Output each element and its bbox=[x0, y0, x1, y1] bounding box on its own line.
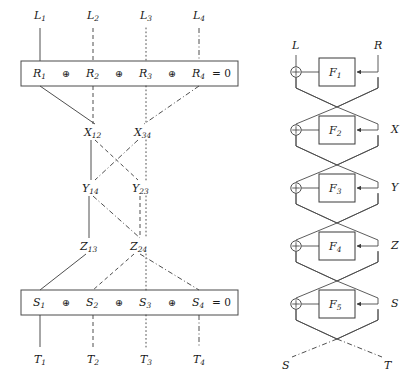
xor-op-bottom-3: ⊕ bbox=[168, 297, 176, 308]
term-s3: S3 bbox=[139, 296, 152, 310]
label-round-4-right: Z bbox=[390, 239, 399, 252]
label-l4: L4 bbox=[192, 9, 205, 23]
top-equation-box bbox=[21, 61, 238, 86]
label-x12: X12 bbox=[83, 126, 102, 140]
edge-r4-to-x34 bbox=[144, 86, 199, 124]
term-s2: S2 bbox=[86, 296, 99, 310]
final-out-right bbox=[337, 339, 382, 357]
label-z13: Z13 bbox=[79, 240, 97, 254]
label-z24: Z24 bbox=[129, 240, 147, 254]
feistel-round-5: F5 S bbox=[291, 290, 399, 318]
term-r2: R2 bbox=[85, 67, 99, 81]
edge-y14-to-z24 bbox=[93, 196, 140, 238]
label-feistel-t-bottom: T bbox=[384, 359, 393, 372]
xor-op-top-1: ⊕ bbox=[62, 68, 70, 79]
term-r1: R1 bbox=[32, 67, 46, 81]
edge-r1-to-x12 bbox=[40, 86, 95, 124]
term-r4: R4 bbox=[191, 67, 205, 81]
label-l1: L1 bbox=[33, 9, 46, 23]
label-y23: Y23 bbox=[132, 182, 149, 196]
term-s1: S1 bbox=[33, 296, 45, 310]
top-equation-result: = 0 bbox=[212, 67, 231, 79]
label-round-3-right: Y bbox=[391, 181, 400, 194]
label-l2: L2 bbox=[86, 9, 99, 23]
label-t2: T2 bbox=[87, 353, 99, 367]
label-y14: Y14 bbox=[82, 182, 99, 196]
edge-z13-to-s1 bbox=[40, 254, 86, 290]
label-t1: T1 bbox=[34, 353, 46, 367]
label-feistel-l-top: L bbox=[291, 39, 299, 52]
edge-x12-to-y23 bbox=[95, 140, 138, 180]
label-round-2-right: X bbox=[390, 123, 400, 136]
feistel-round-2: F2 X bbox=[291, 116, 400, 144]
label-t4: T4 bbox=[193, 353, 205, 367]
feistel-round-4: F4 Z bbox=[291, 232, 399, 260]
bottom-equation-box bbox=[21, 290, 238, 315]
feistel-differential-diagram: L1 L2 L3 L4 R1 ⊕ R2 ⊕ R3 ⊕ R4 = 0 X12 X3… bbox=[0, 0, 411, 372]
label-x34: X34 bbox=[133, 126, 152, 140]
xor-op-bottom-2: ⊕ bbox=[115, 297, 123, 308]
xor-op-bottom-1: ⊕ bbox=[62, 297, 70, 308]
bottom-equation-result: = 0 bbox=[212, 296, 231, 308]
term-s4: S4 bbox=[192, 296, 205, 310]
label-feistel-s-bottom: S bbox=[282, 359, 290, 372]
edge-z24-to-s4 bbox=[140, 254, 199, 290]
final-out-left bbox=[292, 339, 337, 357]
feistel-round-3: F3 Y bbox=[291, 174, 400, 202]
label-l3: L3 bbox=[139, 9, 152, 23]
label-round-5-right: S bbox=[391, 297, 399, 310]
label-feistel-r-top: R bbox=[373, 39, 382, 52]
feistel-round-1: F1 bbox=[291, 58, 378, 86]
edge-z24-to-s2 bbox=[93, 254, 134, 290]
xor-op-top-2: ⊕ bbox=[115, 68, 123, 79]
xor-op-top-3: ⊕ bbox=[168, 68, 176, 79]
label-t3: T3 bbox=[140, 353, 152, 367]
term-r3: R3 bbox=[138, 67, 152, 81]
